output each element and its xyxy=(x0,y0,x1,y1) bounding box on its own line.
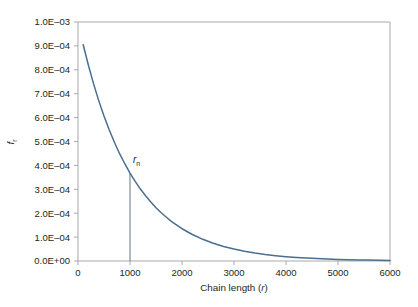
y-axis-tick-labels: 0.0E+001.0E‒042.0E‒043.0E‒044.0E‒045.0E‒… xyxy=(34,16,70,266)
x-tick-label: 0 xyxy=(75,267,80,278)
data-curve-flory-distribution xyxy=(83,45,390,261)
axes-box xyxy=(78,22,390,261)
x-axis-title: Chain length (r) xyxy=(200,282,268,293)
y-tick-label: 1.0E‒04 xyxy=(35,232,70,243)
y-tick-label: 3.0E‒04 xyxy=(35,184,70,195)
y-axis-ticks xyxy=(74,22,78,261)
y-axis-title: fr xyxy=(5,139,18,145)
x-tick-label: 4000 xyxy=(275,267,296,278)
x-axis-ticks xyxy=(78,261,390,265)
x-tick-label: 6000 xyxy=(379,267,400,278)
y-tick-label: 7.0E‒04 xyxy=(35,88,70,99)
chart-figure: 0.0E+001.0E‒042.0E‒043.0E‒044.0E‒045.0E‒… xyxy=(0,0,418,307)
y-tick-label: 9.0E‒04 xyxy=(35,40,70,51)
y-tick-label: 2.0E‒04 xyxy=(35,208,70,219)
x-tick-label: 3000 xyxy=(223,267,244,278)
x-axis-tick-labels: 0100020003000400050006000 xyxy=(75,267,400,278)
y-tick-label: 0.0E+00 xyxy=(34,255,70,266)
annotation-label-rn: rn xyxy=(133,154,140,167)
chart-canvas: 0.0E+001.0E‒042.0E‒043.0E‒044.0E‒045.0E‒… xyxy=(0,0,418,307)
y-tick-label: 4.0E‒04 xyxy=(35,160,70,171)
y-tick-label: 1.0E‒03 xyxy=(35,16,70,27)
x-tick-label: 2000 xyxy=(171,267,192,278)
y-tick-label: 5.0E‒04 xyxy=(35,136,70,147)
y-tick-label: 8.0E‒04 xyxy=(35,64,70,75)
x-tick-label: 5000 xyxy=(327,267,348,278)
plot-frame xyxy=(78,22,390,261)
y-tick-label: 6.0E‒04 xyxy=(35,112,70,123)
x-tick-label: 1000 xyxy=(119,267,140,278)
